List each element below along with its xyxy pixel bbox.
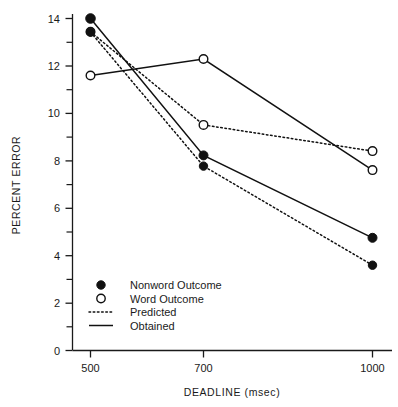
series-nonword-outcome-obtained	[86, 14, 377, 243]
legend-item-predicted: Predicted	[89, 306, 176, 318]
data-point-nonword-predicted-700	[199, 162, 207, 170]
data-point-nonword-obtained-500	[86, 14, 96, 24]
y-axis-minor-ticks	[67, 42, 73, 327]
x-tick-label-500: 500	[81, 362, 99, 374]
data-point-nonword-obtained-700	[199, 151, 208, 160]
y-tick-label-14: 14	[48, 13, 60, 25]
legend-item-word-outcome: Word Outcome	[97, 293, 204, 305]
y-tick-label-2: 2	[54, 297, 60, 309]
y-tick-label-6: 6	[54, 202, 60, 214]
data-point-word-obtained-700	[199, 55, 208, 64]
legend-label-predicted: Predicted	[130, 306, 176, 318]
y-tick-label-4: 4	[54, 250, 60, 262]
series-line-word-obtained	[91, 59, 373, 170]
data-point-word-predicted-700	[199, 121, 208, 130]
data-point-nonword-obtained-1000	[368, 233, 377, 242]
percent-error-line-chart: 14 12 10 8 6 4 2 0 500 700 1000 DEADLINE…	[0, 0, 398, 407]
x-tick-label-1000: 1000	[360, 362, 384, 374]
legend-label-word-outcome: Word Outcome	[130, 293, 204, 305]
y-tick-label-12: 12	[48, 60, 60, 72]
legend-item-nonword-outcome: Nonword Outcome	[97, 279, 222, 291]
chart-figure: 14 12 10 8 6 4 2 0 500 700 1000 DEADLINE…	[0, 0, 398, 407]
y-tick-label-10: 10	[48, 107, 60, 119]
y-axis-tick-labels: 14 12 10 8 6 4 2 0	[48, 13, 60, 357]
y-axis-title: PERCENT ERROR	[10, 136, 22, 235]
axes	[73, 14, 393, 351]
series-line-word-predicted	[91, 32, 373, 151]
series-word-outcome-predicted	[86, 28, 377, 156]
data-point-word-obtained-1000	[368, 166, 377, 175]
legend-label-obtained: Obtained	[130, 320, 175, 332]
series-line-nonword-obtained	[91, 19, 373, 238]
legend-filled-circle-icon	[97, 281, 105, 289]
y-tick-label-8: 8	[54, 155, 60, 167]
x-tick-label-700: 700	[194, 362, 212, 374]
x-axis-ticks	[91, 351, 373, 358]
data-point-word-obtained-500	[86, 71, 95, 80]
series-word-outcome-obtained	[86, 55, 377, 175]
legend-item-obtained: Obtained	[89, 320, 175, 332]
x-axis-tick-labels: 500 700 1000	[81, 362, 384, 374]
data-point-nonword-predicted-500	[86, 28, 94, 36]
x-axis-title: DEADLINE (msec)	[184, 386, 281, 398]
chart-legend: Nonword Outcome Word Outcome Predicted O…	[89, 279, 222, 332]
legend-label-nonword-outcome: Nonword Outcome	[130, 279, 222, 291]
legend-open-circle-icon	[97, 294, 105, 302]
data-point-nonword-predicted-1000	[368, 261, 376, 269]
data-point-word-predicted-1000	[368, 147, 377, 156]
y-tick-label-0: 0	[54, 345, 60, 357]
